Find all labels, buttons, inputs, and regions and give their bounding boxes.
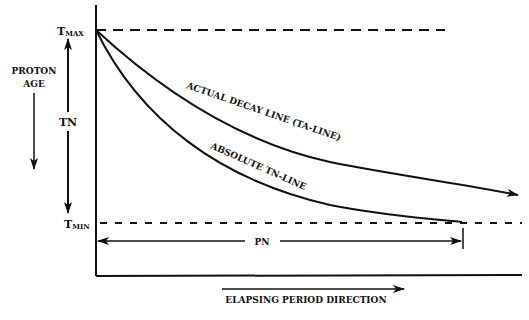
actual-decay-curve-label: ACTUAL DECAY LINE (TA-LINE) xyxy=(184,80,342,143)
proton-age-decay-diagram: TMAX TMIN PROTON AGE TN ACTUAL DECAY LIN… xyxy=(0,0,529,320)
pn-label: PN xyxy=(255,237,270,247)
absolute-tn-curve xyxy=(96,30,462,222)
actual-decay-curve xyxy=(96,30,518,195)
t-max-label: TMAX xyxy=(57,25,84,38)
absolute-tn-curve-label: ABSOLUTE TN-LINE xyxy=(208,140,308,192)
x-axis xyxy=(96,275,522,276)
y-axis-label-line2: AGE xyxy=(22,79,45,89)
tn-label: TN xyxy=(59,116,77,129)
y-axis-label-line1: PROTON xyxy=(12,66,57,76)
t-min-label: TMIN xyxy=(64,218,90,231)
x-axis-label: ELAPSING PERIOD DIRECTION xyxy=(225,295,386,305)
